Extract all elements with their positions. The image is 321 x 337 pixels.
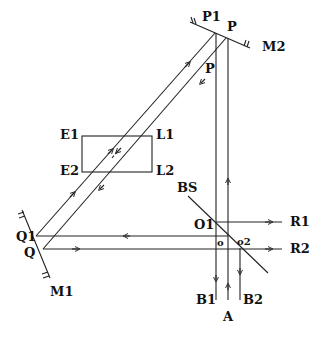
label-l2: L2 <box>156 164 174 177</box>
optics-diagram: P1 P P M2 E1 E2 L1 L2 BS O1 o o2 R1 R2 Q… <box>0 0 321 337</box>
label-p1: P1 <box>202 10 221 23</box>
label-e1: E1 <box>60 128 79 141</box>
label-a: A <box>223 310 233 323</box>
sample-cell <box>82 136 152 172</box>
label-p-mid: P <box>205 62 215 75</box>
label-o1: O1 <box>194 218 214 231</box>
label-r2: R2 <box>290 242 310 255</box>
label-r1: R1 <box>290 215 310 228</box>
label-bs: BS <box>177 181 197 194</box>
mirror-m1 <box>22 210 50 278</box>
label-q: Q <box>24 246 35 259</box>
label-b2: B2 <box>243 293 263 306</box>
label-l1: L1 <box>156 128 174 141</box>
label-m2: M2 <box>262 40 285 53</box>
label-e2: E2 <box>60 164 79 177</box>
label-p-top: P <box>227 20 237 33</box>
label-b1: B1 <box>196 293 216 306</box>
label-m1: M1 <box>50 285 73 298</box>
label-o2: o2 <box>237 237 251 247</box>
label-o: o <box>217 238 224 248</box>
label-q1: Q1 <box>16 230 36 243</box>
